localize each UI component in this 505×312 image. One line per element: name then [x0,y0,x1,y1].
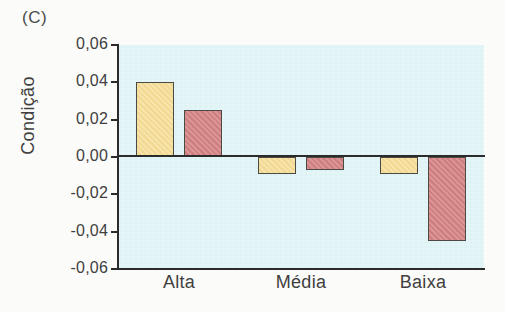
y-tick-label: 0,00 [46,147,108,165]
bar-baixa-series-2 [428,157,466,241]
y-tick-label: -0,06 [46,259,108,277]
zero-baseline [117,155,485,157]
y-tick-label: 0,06 [46,35,108,53]
y-tick-label: 0,02 [46,110,108,128]
chart-figure: (C) Condição 0,060,040,020,00-0,02-0,04-… [0,0,505,312]
bar-baixa-series-1 [380,157,418,174]
bars-layer [118,45,484,269]
bar-alta-series-1 [136,82,174,157]
y-tick-label: -0,04 [46,222,108,240]
x-axis-labels: AltaMédiaBaixa [118,272,484,304]
bar-alta-series-2 [184,110,222,157]
y-tick-label: -0,02 [46,184,108,202]
x-axis-label-mdia: Média [240,272,362,293]
y-axis-ticks: 0,060,040,020,00-0,02-0,04-0,06 [0,0,108,312]
y-tick-label: 0,04 [46,72,108,90]
bar-mdia-series-1 [258,157,296,174]
x-axis-label-baixa: Baixa [362,272,484,293]
bar-mdia-series-2 [306,157,344,170]
x-axis-label-alta: Alta [118,272,240,293]
